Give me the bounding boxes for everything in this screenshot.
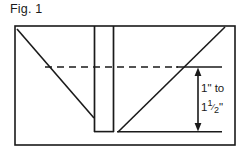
figure-container: Fig. 1 1" to 11⁄2" [0, 0, 249, 156]
dimension-label-line1: 1" to [201, 81, 224, 96]
dimension-label-line2: 11⁄2" [201, 96, 223, 118]
figure-line-drawing [0, 0, 249, 156]
dimension-arrow-head-up [195, 68, 202, 77]
dimension-fraction-numerator: 1 [207, 98, 212, 108]
dimension-arrow-head-down [195, 123, 202, 132]
dimension-unit-mark: " [219, 101, 223, 113]
dimension-fraction: 1⁄2 [207, 102, 219, 112]
left-diagonal-line [17, 29, 94, 118]
